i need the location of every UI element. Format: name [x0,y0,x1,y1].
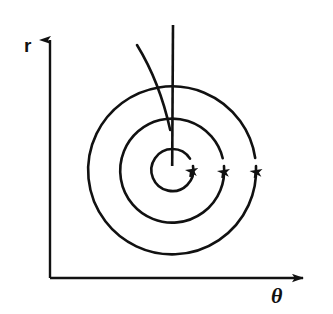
phase-portrait-diagram [0,0,333,314]
trajectories-group [137,25,173,166]
vertical-axis-label: r [24,36,31,55]
vertical-trajectory [172,25,173,166]
middle-limit-cycle-arrow [223,172,224,178]
inner-limit-cycle-arrow [190,171,191,177]
horizontal-axis-label: θ [271,285,282,307]
figure-root: r θ [0,0,333,314]
outer-limit-cycle-arrow [255,172,256,178]
